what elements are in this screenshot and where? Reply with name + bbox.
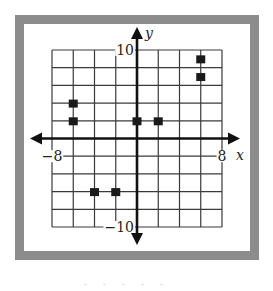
data-point bbox=[196, 55, 205, 63]
coordinate-plane-chart: −8810−10xy " " " " " bbox=[0, 0, 273, 291]
artifact-mark: " bbox=[84, 282, 87, 289]
y-tick-label: 10 bbox=[116, 42, 134, 58]
x-axis-right-arrow-icon bbox=[228, 133, 240, 145]
scan-artifacts: " " " " " bbox=[84, 282, 163, 289]
x-axis-left-arrow-icon bbox=[30, 133, 42, 145]
artifact-mark: " bbox=[160, 282, 163, 289]
data-point bbox=[69, 100, 78, 108]
x-tick-label: −8 bbox=[42, 148, 63, 164]
x-tick-label: 8 bbox=[218, 148, 227, 164]
axes bbox=[30, 27, 240, 245]
data-point bbox=[69, 117, 78, 125]
x-axis-label: x bbox=[236, 147, 244, 163]
data-point bbox=[133, 117, 142, 125]
y-tick-label: −10 bbox=[104, 219, 134, 235]
data-point bbox=[196, 73, 205, 81]
data-point bbox=[111, 188, 120, 196]
data-point bbox=[90, 188, 99, 196]
tick-labels: −8810−10xy bbox=[41, 25, 245, 235]
y-axis-up-arrow-icon bbox=[131, 27, 143, 39]
y-axis-label: y bbox=[144, 25, 154, 41]
artifact-mark: " bbox=[122, 282, 125, 289]
artifact-mark: " bbox=[141, 282, 144, 289]
data-point bbox=[154, 117, 163, 125]
artifact-mark: " bbox=[103, 282, 106, 289]
